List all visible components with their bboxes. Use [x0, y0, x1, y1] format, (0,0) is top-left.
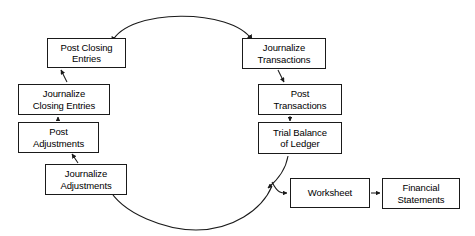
node-post-closing-entries[interactable]: Post Closing Entries [47, 38, 126, 68]
node-post-adjustments[interactable]: Post Adjustments [18, 122, 99, 153]
node-trial-balance-of-ledger[interactable]: Trial Balance of Ledger [258, 122, 342, 154]
node-journalize-closing-entries[interactable]: Journalize Closing Entries [18, 84, 110, 115]
node-journalize-adjustments[interactable]: Journalize Adjustments [45, 164, 127, 195]
node-worksheet[interactable]: Worksheet [290, 178, 370, 208]
accounting-cycle-diagram: Post Closing Entries Journalize Closing … [0, 0, 475, 236]
connector-journalize-adjustments-to-post-adjustments [72, 154, 78, 163]
node-post-transactions[interactable]: Post Transactions [258, 84, 342, 115]
node-journalize-transactions[interactable]: Journalize Transactions [242, 38, 326, 69]
connector-journalize-transactions-to-post-transactions [278, 70, 284, 82]
node-financial-statements[interactable]: Financial Statements [382, 178, 460, 209]
connector-journalize-closing-to-post-closing [61, 70, 67, 82]
